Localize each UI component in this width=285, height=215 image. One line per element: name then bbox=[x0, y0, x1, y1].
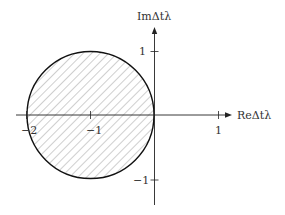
y-tick-label: 1 bbox=[139, 45, 146, 58]
stability-diagram: ReΔtλ ImΔtλ −2 −1 1 1 −1 bbox=[0, 0, 285, 215]
y-axis-label: ImΔtλ bbox=[137, 10, 171, 23]
x-axis-arrow-icon bbox=[225, 112, 232, 117]
y-axis-arrow-icon bbox=[152, 27, 157, 34]
x-tick-label: −2 bbox=[21, 124, 37, 137]
x-tick-label: −1 bbox=[86, 124, 102, 137]
x-tick-label: 1 bbox=[215, 124, 222, 137]
x-axis-label: ReΔtλ bbox=[237, 109, 271, 122]
y-tick-label: −1 bbox=[133, 174, 149, 187]
